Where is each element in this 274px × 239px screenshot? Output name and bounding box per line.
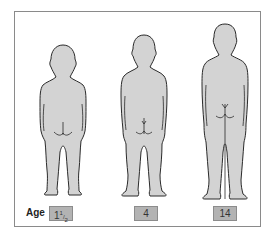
figure-toddler — [40, 45, 86, 195]
figure-child — [121, 35, 167, 196]
figure-adolescent — [202, 24, 248, 199]
age-badge-adolescent: 14 — [213, 206, 237, 221]
age-badge-child: 4 — [134, 206, 158, 221]
body-proportions-illustration — [0, 0, 274, 239]
age-badge-toddler: 11/2 — [49, 206, 73, 221]
age-label: Age — [26, 207, 45, 218]
age-fraction-denominator: 2 — [65, 217, 68, 223]
